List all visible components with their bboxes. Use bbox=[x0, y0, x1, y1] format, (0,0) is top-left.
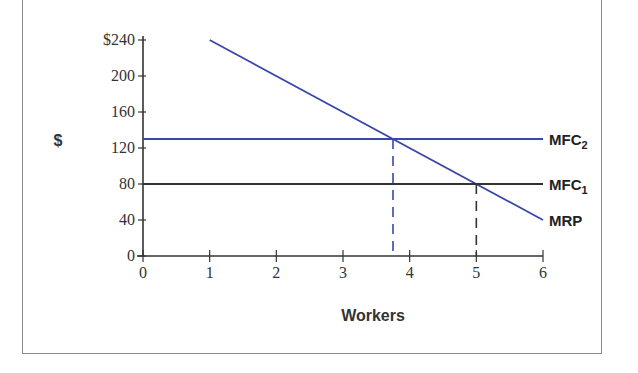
chart: 04080120160200$2400123456$WorkersMRPMFC2… bbox=[0, 0, 638, 373]
x-tick-label: 4 bbox=[406, 264, 414, 281]
x-tick-label: 6 bbox=[539, 264, 547, 281]
y-axis-title: $ bbox=[54, 132, 63, 149]
x-axis-title: Workers bbox=[341, 307, 405, 324]
series-label-mrp: MRP bbox=[549, 212, 582, 229]
series-label-mfc1: MFC1 bbox=[549, 176, 588, 196]
y-tick-label: $240 bbox=[103, 31, 135, 48]
x-tick-label: 3 bbox=[339, 264, 347, 281]
x-tick-label: 1 bbox=[206, 264, 214, 281]
y-tick-label: 0 bbox=[127, 247, 135, 264]
series-line-mrp bbox=[210, 40, 543, 220]
y-tick-label: 80 bbox=[119, 175, 135, 192]
y-tick-label: 120 bbox=[111, 139, 135, 156]
x-tick-label: 5 bbox=[472, 264, 480, 281]
x-tick-label: 0 bbox=[139, 264, 147, 281]
y-tick-label: 160 bbox=[111, 103, 135, 120]
x-tick-label: 2 bbox=[272, 264, 280, 281]
series-label-mfc2: MFC2 bbox=[549, 131, 588, 151]
y-tick-label: 40 bbox=[119, 211, 135, 228]
y-tick-label: 200 bbox=[111, 67, 135, 84]
